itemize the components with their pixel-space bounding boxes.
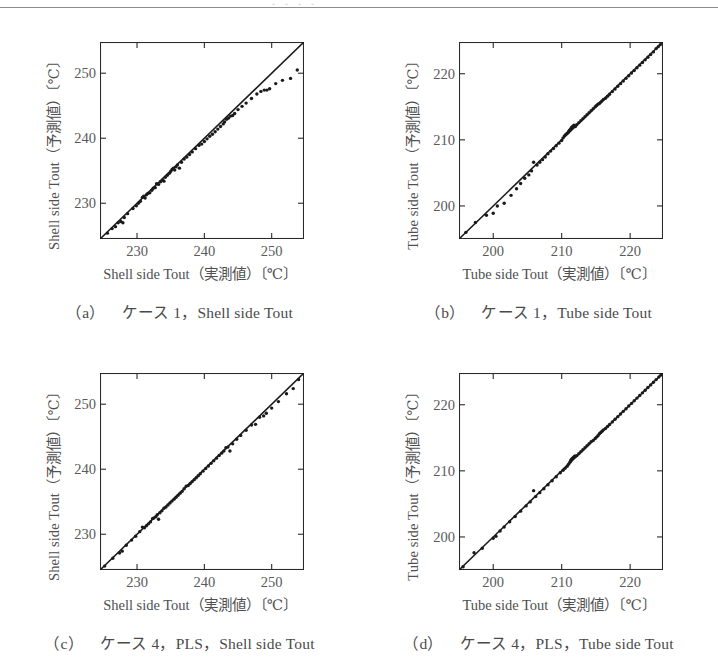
scatter-point [211,133,214,136]
scatter-point [111,557,114,560]
scatter-point [611,90,614,93]
scatter-point [207,464,210,467]
scatter-point [557,141,560,144]
scatter-point [203,140,206,143]
scatter-point [659,373,662,376]
scatter-point [262,414,265,417]
scatter-point [509,194,512,197]
scatter-point [649,53,652,56]
scatter-point [649,383,652,386]
scatter-point [542,487,545,490]
scatter-point [157,518,160,521]
scatter-point [106,231,109,234]
scatter-point [285,392,288,395]
scatter-point [552,147,555,150]
scatter-point [268,87,271,90]
scatter-point [123,216,126,219]
scatter-point [555,475,558,478]
scatter-point [194,147,197,150]
scatter-point [212,459,215,462]
scatter-point [630,71,633,74]
scatter-point [627,74,630,77]
y-tick-label: 200 [415,197,455,214]
y-tick-label: 210 [415,131,455,148]
scatter-point [191,150,194,153]
panel-d-caption: （d）ケース 4，PLS，Tube side Tout [359,631,718,653]
panel-c-scatter-svg [100,373,304,570]
scatter-point [502,202,505,205]
scatter-point [641,61,644,64]
scatter-point [555,144,558,147]
panel-a-caption-key: （a） [66,304,105,321]
panel-c-caption: （c）ケース 4，PLS，Shell side Tout [0,631,359,653]
scatter-point [646,386,649,389]
scatter-point [524,504,527,507]
scatter-point [532,161,535,164]
panel-c-caption-key: （c） [44,635,83,652]
panel-c-x-tick-labels: 230240250 [100,574,304,594]
scatter-point [494,535,497,538]
y-tick-label: 230 [56,195,96,212]
scatter-point [519,509,522,512]
scatter-point [498,529,501,532]
panel-a-scatter-svg [100,42,304,239]
scatter-point [652,50,655,53]
panel-a-caption: （a）ケース 1，Shell side Tout [0,300,359,322]
scatter-point [549,149,552,152]
panel-b-plot-area [459,42,663,239]
scatter-point [239,434,242,437]
scatter-point [654,378,657,381]
scatter-point [185,155,188,158]
scatter-point [270,406,273,409]
panel-d-caption-text: ケース 4，PLS，Tube side Tout [460,635,674,652]
scatter-point [114,225,117,228]
scatter-point [635,66,638,69]
scatter-point [624,77,627,80]
x-tick-label: 240 [179,243,229,260]
scatter-point [216,127,219,130]
scatter-point [485,214,488,217]
scatter-point [209,462,212,465]
panel-c-y-tick-labels: 230240250 [52,373,96,570]
scatter-point [630,402,633,405]
scatter-point [259,90,262,93]
scatter-point [103,564,106,567]
y-tick-label: 200 [415,528,455,545]
panel-c-plot-area [100,373,304,570]
scatter-point [472,551,475,554]
scatter-point [541,158,544,161]
panel-b-caption-text: ケース 1，Tube side Tout [481,304,652,321]
scatter-point [244,429,247,432]
scatter-point [492,212,495,215]
scatter-point [240,105,243,108]
scatter-point [622,79,625,82]
scatter-point [546,152,549,155]
scatter-point [236,108,239,111]
scatter-point [528,500,531,503]
panel-a-y-tick-labels: 230240250 [52,42,96,239]
scatter-point [611,420,614,423]
scatter-point [641,391,644,394]
scatter-point [199,472,202,475]
scatter-point [219,125,222,128]
scatter-point [215,456,218,459]
scatter-point [538,161,541,164]
scatter-point [496,204,499,207]
y-tick-label: 220 [415,65,455,82]
scatter-point [613,418,616,421]
scatter-point [530,169,533,172]
scatter-point [222,449,225,452]
scatter-point [126,212,129,215]
panel-b-scatter-svg [459,42,663,239]
scatter-point [296,68,299,71]
scatter-point [138,530,141,533]
scatter-point [292,387,295,390]
scatter-point [616,415,619,418]
x-tick-label: 250 [247,243,297,260]
scatter-point [134,534,137,537]
panel-a-plot-area [100,42,304,239]
scatter-point [149,520,152,523]
panel-d: Tube side Tout（予測値）〔℃〕 200210220 2002102… [359,343,718,663]
scatter-point [622,410,625,413]
scatter-point [619,412,622,415]
